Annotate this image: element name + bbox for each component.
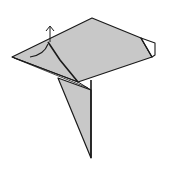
hanging-triangle-flap [58, 78, 91, 158]
main-sheet [12, 18, 152, 82]
origami-diagram [0, 0, 169, 179]
